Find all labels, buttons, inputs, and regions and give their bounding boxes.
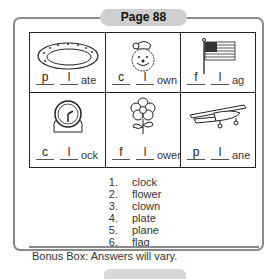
answer-number: 2. [92,188,132,200]
answer-word: plate [132,212,156,224]
blank-first-letter: p [36,70,54,85]
blank-second-letter: l [136,145,154,160]
blank-first-letter: p [187,145,205,160]
answer-number: 3. [92,200,132,212]
answer-item: 4.plate [92,212,161,224]
answer-item: 3.clown [92,200,161,212]
next-page-tab [104,269,186,279]
grid-cell-flag: f l ag [181,33,255,93]
flower-icon [106,97,180,135]
answer-word: plane [132,224,159,236]
clock-icon [30,97,105,135]
answer-word: clock [132,176,157,188]
word-ending: ag [232,74,244,86]
blank-second-letter: l [211,145,229,160]
plane-icon [181,97,255,135]
grid-cell-plane: p l ane [181,93,255,167]
answer-number: 4. [92,212,132,224]
page-title: Page 88 [100,9,187,26]
blank-first-letter: f [112,145,130,160]
word-clock: c l ock [34,147,103,163]
answer-number: 5. [92,224,132,236]
word-ending: ock [81,149,98,161]
word-clown: c l own [110,72,178,88]
word-ending: ower [157,149,181,161]
word-plane: p l ane [185,147,253,163]
bonus-box-note: Bonus Box: Answers will vary. [32,250,177,262]
word-ending: own [157,74,177,86]
blank-first-letter: c [112,70,130,85]
picture-grid: p l ate c l own f l ag c l ock [29,32,256,168]
blank-second-letter: l [211,70,229,85]
answer-number: 1. [92,176,132,188]
answer-word: flower [132,188,161,200]
answer-item: 2.flower [92,188,161,200]
word-flag: f l ag [185,72,253,88]
answer-list: 1.clock 2.flower 3.clown 4.plate 5.plane… [92,176,161,248]
grid-cell-flower: f l ower [106,93,181,167]
blank-second-letter: l [136,70,154,85]
word-ending: ate [81,74,96,86]
word-ending: ane [232,149,250,161]
divider [29,246,259,248]
blank-first-letter: f [187,70,205,85]
answer-item: 5.plane [92,224,161,236]
word-flower: f l ower [110,147,178,163]
blank-second-letter: l [60,145,78,160]
blank-first-letter: c [36,145,54,160]
grid-cell-clock: c l ock [30,93,106,167]
grid-cell-plate: p l ate [30,33,106,93]
grid-cell-clown: c l own [106,33,181,93]
blank-second-letter: l [60,70,78,85]
word-plate: p l ate [34,72,103,88]
answer-item: 1.clock [92,176,161,188]
answer-word: clown [132,200,160,212]
